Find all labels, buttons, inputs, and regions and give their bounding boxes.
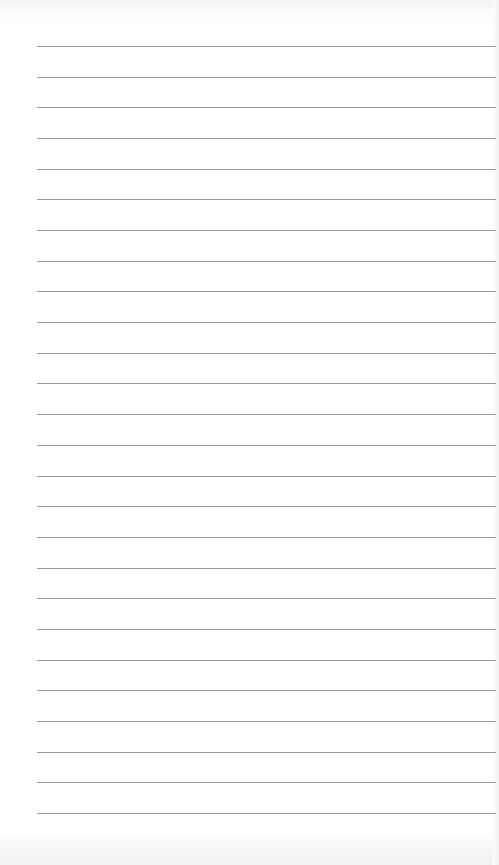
ruled-line bbox=[37, 813, 496, 814]
ruled-line bbox=[37, 445, 496, 446]
ruled-line bbox=[37, 383, 496, 384]
ruled-line bbox=[37, 138, 496, 139]
ruled-line bbox=[37, 598, 496, 599]
ruled-line bbox=[37, 353, 496, 354]
ruled-line bbox=[37, 261, 496, 262]
ruled-line bbox=[37, 476, 496, 477]
ruled-line bbox=[37, 537, 496, 538]
ruled-line bbox=[37, 169, 496, 170]
paper-right-edge-shadow bbox=[493, 0, 499, 865]
ruled-line bbox=[37, 291, 496, 292]
ruled-line bbox=[37, 107, 496, 108]
ruled-line bbox=[37, 752, 496, 753]
ruled-line bbox=[37, 568, 496, 569]
ruled-line bbox=[37, 46, 496, 47]
ruled-line bbox=[37, 660, 496, 661]
ruled-line bbox=[37, 414, 496, 415]
ruled-line bbox=[37, 721, 496, 722]
ruled-line bbox=[37, 690, 496, 691]
ruled-line bbox=[37, 199, 496, 200]
ruled-line bbox=[37, 230, 496, 231]
ruled-line bbox=[37, 782, 496, 783]
ruled-line bbox=[37, 629, 496, 630]
ruled-line bbox=[37, 506, 496, 507]
lined-paper-sheet bbox=[0, 0, 499, 865]
ruled-line bbox=[37, 77, 496, 78]
ruled-line bbox=[37, 322, 496, 323]
